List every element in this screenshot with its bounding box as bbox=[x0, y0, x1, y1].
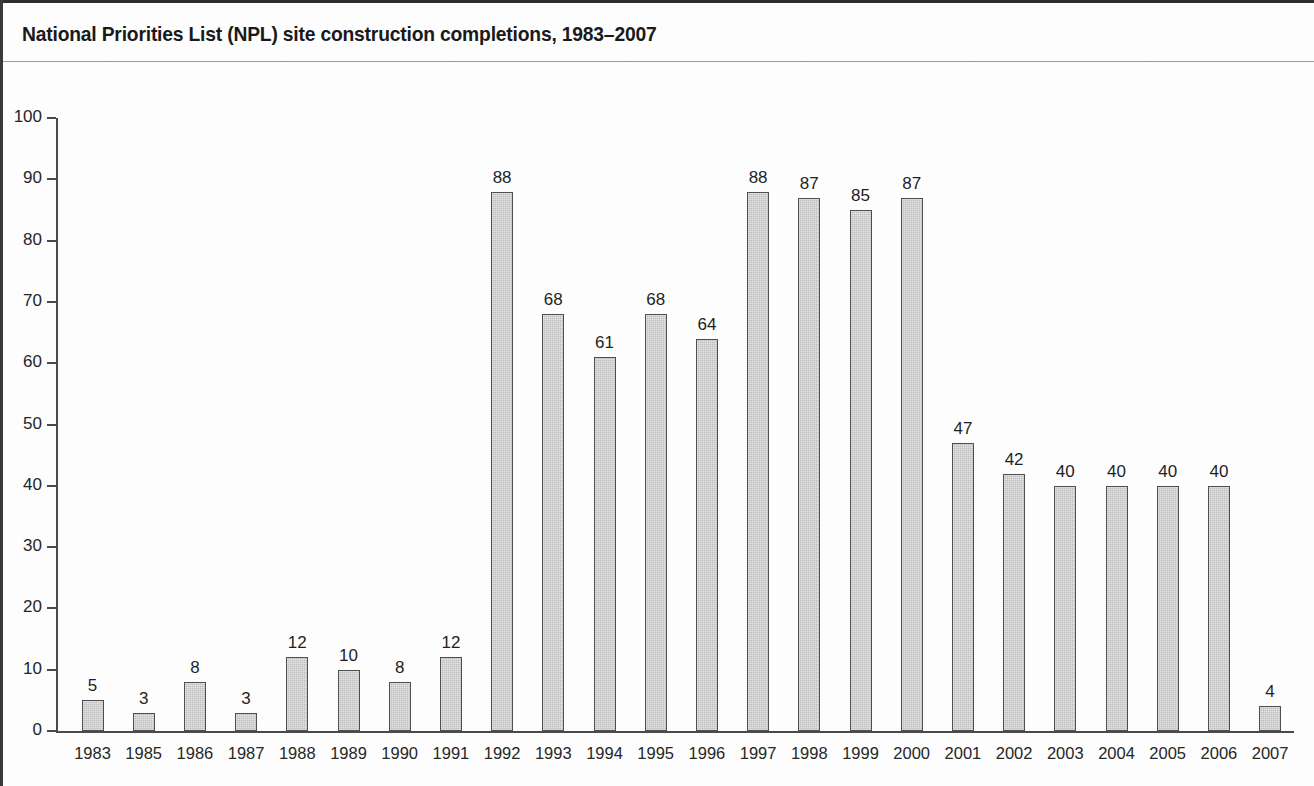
bar-value-label: 3 bbox=[119, 689, 169, 709]
y-axis-label: 70 bbox=[0, 291, 42, 311]
bar bbox=[286, 657, 308, 731]
x-axis-label: 1995 bbox=[629, 744, 683, 763]
bar bbox=[184, 682, 206, 731]
y-axis-tick bbox=[47, 485, 56, 487]
bar bbox=[901, 198, 923, 731]
x-axis-label: 1993 bbox=[526, 744, 580, 763]
y-axis-label: 100 bbox=[0, 107, 42, 127]
bar bbox=[1157, 486, 1179, 731]
bar-value-label: 3 bbox=[221, 689, 271, 709]
x-axis-label: 1991 bbox=[424, 744, 478, 763]
x-axis-line bbox=[57, 731, 1294, 733]
bar bbox=[594, 357, 616, 731]
x-axis-label: 1990 bbox=[373, 744, 427, 763]
bar bbox=[696, 339, 718, 731]
bar bbox=[82, 700, 104, 731]
bar bbox=[542, 314, 564, 731]
y-axis-label: 90 bbox=[0, 168, 42, 188]
y-axis-tick bbox=[47, 546, 56, 548]
y-axis-label: 10 bbox=[0, 659, 42, 679]
y-axis-label: 60 bbox=[0, 352, 42, 372]
bar-value-label: 47 bbox=[938, 419, 988, 439]
bar bbox=[389, 682, 411, 731]
bar-value-label: 40 bbox=[1194, 462, 1244, 482]
y-axis-tick bbox=[47, 117, 56, 119]
bar bbox=[1003, 474, 1025, 731]
x-axis-label: 2005 bbox=[1141, 744, 1195, 763]
y-axis-label: 50 bbox=[0, 414, 42, 434]
bar-value-label: 87 bbox=[784, 174, 834, 194]
bar-value-label: 61 bbox=[580, 333, 630, 353]
y-axis-tick bbox=[47, 730, 56, 732]
bar-value-label: 85 bbox=[836, 186, 886, 206]
bar bbox=[1106, 486, 1128, 731]
bar-value-label: 64 bbox=[682, 315, 732, 335]
x-axis-label: 1983 bbox=[66, 744, 120, 763]
y-axis-tick bbox=[47, 240, 56, 242]
x-axis-label: 1985 bbox=[117, 744, 171, 763]
bar bbox=[645, 314, 667, 731]
x-axis-label: 2004 bbox=[1090, 744, 1144, 763]
bar bbox=[338, 670, 360, 731]
bar bbox=[491, 192, 513, 731]
y-axis-label: 30 bbox=[0, 536, 42, 556]
bar-value-label: 88 bbox=[733, 168, 783, 188]
x-axis-label: 2003 bbox=[1038, 744, 1092, 763]
bar-value-label: 40 bbox=[1040, 462, 1090, 482]
y-axis-label: 20 bbox=[0, 597, 42, 617]
y-axis-tick bbox=[47, 669, 56, 671]
bar-value-label: 68 bbox=[631, 290, 681, 310]
x-axis-label: 2001 bbox=[936, 744, 990, 763]
bar bbox=[850, 210, 872, 731]
x-axis-label: 1987 bbox=[219, 744, 273, 763]
x-axis-label: 1986 bbox=[168, 744, 222, 763]
bar-value-label: 12 bbox=[426, 633, 476, 653]
bar-value-label: 87 bbox=[887, 174, 937, 194]
bar-value-label: 10 bbox=[324, 646, 374, 666]
bar bbox=[747, 192, 769, 731]
x-axis-label: 2000 bbox=[885, 744, 939, 763]
x-axis-label: 1996 bbox=[680, 744, 734, 763]
x-axis-label: 1997 bbox=[731, 744, 785, 763]
bar-value-label: 4 bbox=[1245, 682, 1295, 702]
bar bbox=[952, 443, 974, 731]
y-axis-label: 40 bbox=[0, 475, 42, 495]
bar-value-label: 68 bbox=[528, 290, 578, 310]
y-axis-label: 80 bbox=[0, 230, 42, 250]
x-axis-label: 1988 bbox=[270, 744, 324, 763]
bar-value-label: 8 bbox=[170, 658, 220, 678]
y-axis-tick bbox=[47, 607, 56, 609]
y-axis-tick bbox=[47, 301, 56, 303]
y-axis-line bbox=[56, 118, 58, 733]
bar-value-label: 88 bbox=[477, 168, 527, 188]
bar bbox=[440, 657, 462, 731]
bar bbox=[1054, 486, 1076, 731]
y-axis-label: 0 bbox=[0, 720, 42, 740]
bar-value-label: 42 bbox=[989, 450, 1039, 470]
chart-figure: National Priorities List (NPL) site cons… bbox=[0, 0, 1314, 786]
y-axis-tick bbox=[47, 178, 56, 180]
x-axis-label: 2007 bbox=[1243, 744, 1297, 763]
x-axis-label: 2006 bbox=[1192, 744, 1246, 763]
bar bbox=[133, 713, 155, 731]
bar-value-label: 40 bbox=[1092, 462, 1142, 482]
bar-value-label: 12 bbox=[272, 633, 322, 653]
bar-value-label: 8 bbox=[375, 658, 425, 678]
bar bbox=[1208, 486, 1230, 731]
y-axis-tick bbox=[47, 362, 56, 364]
x-axis-label: 1998 bbox=[782, 744, 836, 763]
bar bbox=[235, 713, 257, 731]
x-axis-label: 1999 bbox=[834, 744, 888, 763]
x-axis-label: 1994 bbox=[578, 744, 632, 763]
bar bbox=[1259, 706, 1281, 731]
x-axis-label: 2002 bbox=[987, 744, 1041, 763]
x-axis-label: 1989 bbox=[322, 744, 376, 763]
bar bbox=[798, 198, 820, 731]
x-axis-label: 1992 bbox=[475, 744, 529, 763]
y-axis-tick bbox=[47, 424, 56, 426]
bar-value-label: 5 bbox=[68, 676, 118, 696]
bar-value-label: 40 bbox=[1143, 462, 1193, 482]
plot-area: 0102030405060708090100 53831210812886861… bbox=[0, 0, 1314, 786]
